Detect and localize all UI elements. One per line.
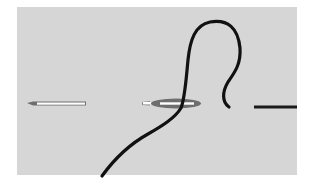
needle-threaded-icon — [142, 99, 201, 109]
needle-threading-illustration — [0, 0, 312, 182]
needle-left-icon — [27, 102, 86, 106]
